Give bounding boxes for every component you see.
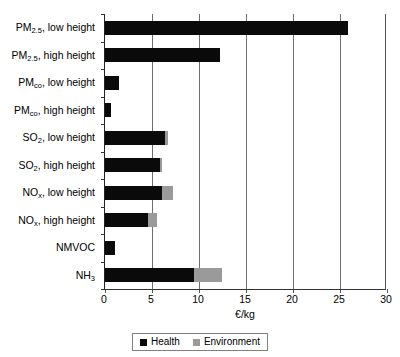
- x-tick-label: 5: [148, 293, 154, 305]
- category-tick: [101, 234, 105, 235]
- bar-row[interactable]: [105, 262, 385, 290]
- stacked-bar[interactable]: [105, 48, 220, 62]
- bar-segment-health[interactable]: [105, 213, 148, 227]
- bar-segment-environment[interactable]: [165, 131, 168, 145]
- bar-series-group: [105, 14, 385, 289]
- stacked-bar[interactable]: [105, 213, 157, 227]
- x-tick-label: 30: [380, 293, 392, 305]
- stacked-bar[interactable]: [105, 268, 222, 282]
- legend-label: Environment: [204, 336, 260, 348]
- plot-area: [104, 14, 386, 289]
- bar-segment-health[interactable]: [105, 241, 115, 255]
- bar-row[interactable]: [105, 14, 385, 42]
- bar-segment-health[interactable]: [105, 76, 119, 90]
- bar-row[interactable]: [105, 124, 385, 152]
- category-tick: [101, 97, 105, 98]
- category-tick: [101, 262, 105, 263]
- category-label: PM2.5, high height: [0, 42, 98, 70]
- stacked-bar[interactable]: [105, 103, 111, 117]
- bar-segment-health[interactable]: [105, 21, 348, 35]
- stacked-bar[interactable]: [105, 186, 173, 200]
- bar-segment-health[interactable]: [105, 268, 194, 282]
- bar-row[interactable]: [105, 234, 385, 262]
- bar-segment-health[interactable]: [105, 158, 160, 172]
- stacked-bar[interactable]: [105, 158, 162, 172]
- bar-segment-environment[interactable]: [148, 213, 156, 227]
- category-tick: [101, 69, 105, 70]
- category-label: PMco, low height: [0, 69, 98, 97]
- x-axis-tick-labels: 051015202530: [0, 293, 400, 307]
- bar-segment-environment[interactable]: [160, 158, 162, 172]
- bar-row[interactable]: [105, 42, 385, 70]
- x-tick-label: 20: [286, 293, 298, 305]
- category-tick: [101, 124, 105, 125]
- category-label: NOx, high height: [0, 207, 98, 235]
- category-label: PM2.5, low height: [0, 14, 98, 42]
- stacked-bar[interactable]: [105, 241, 115, 255]
- bar-row[interactable]: [105, 97, 385, 125]
- bar-segment-health[interactable]: [105, 48, 220, 62]
- category-axis-labels: PM2.5, low heightPM2.5, high heightPMco,…: [0, 14, 98, 289]
- bar-row[interactable]: [105, 179, 385, 207]
- bar-row[interactable]: [105, 207, 385, 235]
- bar-chart: PM2.5, low heightPM2.5, high heightPMco,…: [0, 0, 400, 357]
- legend-entry[interactable]: Environment: [193, 336, 260, 348]
- legend-swatch-icon: [140, 339, 147, 346]
- category-label: NMVOC: [0, 234, 98, 262]
- category-label: PMco, high height: [0, 97, 98, 125]
- bar-segment-health[interactable]: [105, 131, 165, 145]
- x-tick-label: 15: [239, 293, 251, 305]
- x-axis-line: [104, 289, 386, 290]
- legend-entry[interactable]: Health: [140, 336, 180, 348]
- bar-row[interactable]: [105, 152, 385, 180]
- x-axis-title: €/kg: [104, 308, 386, 320]
- bar-segment-health[interactable]: [105, 186, 162, 200]
- bar-segment-health[interactable]: [105, 103, 111, 117]
- x-tick-label: 0: [101, 293, 107, 305]
- stacked-bar[interactable]: [105, 76, 119, 90]
- category-tick: [101, 14, 105, 15]
- stacked-bar[interactable]: [105, 131, 168, 145]
- category-label: SO2, high height: [0, 152, 98, 180]
- x-tick-label: 10: [192, 293, 204, 305]
- category-tick: [101, 42, 105, 43]
- legend-label: Health: [151, 336, 180, 348]
- bar-segment-environment[interactable]: [162, 186, 172, 200]
- category-tick: [101, 207, 105, 208]
- legend-swatch-icon: [193, 339, 200, 346]
- x-tick-label: 25: [333, 293, 345, 305]
- stacked-bar[interactable]: [105, 21, 348, 35]
- chart-legend: HealthEnvironment: [132, 333, 268, 351]
- category-label: SO2, low height: [0, 124, 98, 152]
- bar-segment-environment[interactable]: [194, 268, 222, 282]
- category-tick: [101, 152, 105, 153]
- category-label: NOx, low height: [0, 179, 98, 207]
- bar-row[interactable]: [105, 69, 385, 97]
- category-label: NH3: [0, 262, 98, 290]
- category-tick: [101, 179, 105, 180]
